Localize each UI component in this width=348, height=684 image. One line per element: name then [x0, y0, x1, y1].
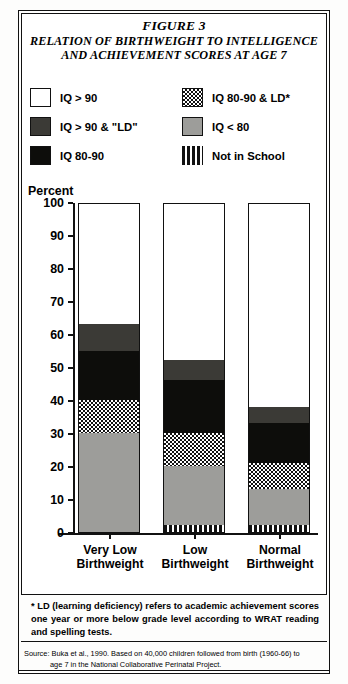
- source-line-2: age 7 in the National Collaborative Peri…: [24, 659, 324, 670]
- source-line-1: Source: Buka et al., 1990. Based on 40,0…: [24, 649, 300, 658]
- segment-iq-80-90: [164, 380, 224, 433]
- legend-item-iq-gt-90-ld: IQ > 90 & "LD": [30, 117, 138, 136]
- segment-iq-gt-90-ld: [79, 324, 139, 350]
- y-tick-mark: [68, 466, 73, 468]
- x-tick-mark-2: [194, 533, 196, 539]
- x-category-line-2: Birthweight: [225, 557, 335, 571]
- legend-item-iq-80-90: IQ 80-90: [30, 146, 104, 165]
- x-tick-mark-3: [279, 533, 281, 539]
- source-note: Source: Buka et al., 1990. Based on 40,0…: [24, 648, 324, 670]
- y-tick-label: 60: [50, 328, 64, 342]
- y-tick-label: 70: [50, 295, 64, 309]
- legend-label: IQ > 90 & "LD": [60, 121, 138, 133]
- legend-label: Not in School: [212, 150, 285, 162]
- figure-number: FIGURE 3: [21, 18, 327, 34]
- segment-iq-gt-90: [164, 203, 224, 360]
- x-category-line-1: Normal: [225, 543, 335, 557]
- segment-iq-lt-80: [164, 466, 224, 525]
- legend-label: IQ > 90: [60, 92, 97, 104]
- y-tick-label: 30: [50, 427, 64, 441]
- segment-iq-gt-90: [249, 203, 309, 407]
- y-tick-label: 50: [50, 361, 64, 375]
- chart-legend: IQ > 90 IQ 80-90 & LD* IQ > 90 & "LD" IQ…: [30, 88, 320, 168]
- segment-iq-gt-90: [79, 203, 139, 324]
- legend-label: IQ < 80: [212, 121, 249, 133]
- legend-swatch-checkered-square: [182, 88, 203, 107]
- segment-not-in-school: [249, 525, 309, 532]
- y-tick-mark: [68, 532, 73, 534]
- y-tick-label: 40: [50, 394, 64, 408]
- legend-swatch-striped-square: [182, 146, 203, 165]
- divider-rule: [21, 641, 327, 642]
- y-tick-mark: [68, 400, 73, 402]
- legend-swatch-dark-gray-square: [30, 117, 51, 136]
- x-tick-mark-1: [109, 533, 111, 539]
- bar-normal-birthweight[interactable]: [248, 203, 310, 533]
- figure-container: FIGURE 3 RELATION OF BIRTHWEIGHT TO INTE…: [0, 0, 348, 684]
- y-tick-label: 20: [50, 460, 64, 474]
- y-tick-mark: [68, 235, 73, 237]
- segment-iq-lt-80: [249, 489, 309, 525]
- segment-iq-gt-90-ld: [249, 407, 309, 424]
- y-tick-label: 80: [50, 262, 64, 276]
- y-tick-mark: [68, 367, 73, 369]
- bottom-rule: [18, 670, 330, 671]
- y-tick-label: 90: [50, 229, 64, 243]
- segment-iq-gt-90-ld: [164, 360, 224, 380]
- legend-swatch-white-square: [30, 88, 51, 107]
- footnote-ld-definition: * LD (learning deficiency) refers to aca…: [31, 600, 319, 640]
- segment-iq-80-90: [249, 423, 309, 463]
- legend-item-iq-80-90-ld: IQ 80-90 & LD*: [182, 88, 290, 107]
- segment-iq-80-90-ld: [164, 433, 224, 466]
- figure-title-line-1: RELATION OF BIRTHWEIGHT TO INTELLIGENCE: [21, 34, 327, 48]
- y-tick-label: 0: [57, 526, 64, 540]
- segment-iq-80-90-ld: [79, 400, 139, 433]
- y-tick-mark: [68, 301, 73, 303]
- legend-item-not-in-school: Not in School: [182, 146, 285, 165]
- plot-area: [74, 203, 314, 533]
- legend-swatch-black-square: [30, 146, 51, 165]
- figure-title: FIGURE 3 RELATION OF BIRTHWEIGHT TO INTE…: [21, 18, 327, 63]
- legend-swatch-gray-square: [182, 117, 203, 136]
- y-tick-label: 10: [50, 493, 64, 507]
- segment-iq-80-90-ld: [249, 463, 309, 489]
- y-tick-mark: [68, 202, 73, 204]
- y-tick-mark: [68, 433, 73, 435]
- y-tick-mark: [68, 499, 73, 501]
- bar-low-birthweight[interactable]: [163, 203, 225, 533]
- x-category-normal-birthweight: Normal Birthweight: [225, 543, 335, 572]
- segment-iq-lt-80: [79, 433, 139, 532]
- legend-label: IQ 80-90 & LD*: [212, 92, 290, 104]
- legend-item-iq-lt-80: IQ < 80: [182, 117, 249, 136]
- y-tick-mark: [68, 334, 73, 336]
- legend-label: IQ 80-90: [60, 150, 104, 162]
- segment-iq-80-90: [79, 351, 139, 401]
- segment-not-in-school: [164, 525, 224, 532]
- bar-very-low-birthweight[interactable]: [78, 203, 140, 533]
- y-tick-label: 100: [43, 196, 64, 210]
- figure-title-line-2: AND ACHIEVEMENT SCORES AT AGE 7: [21, 48, 327, 62]
- y-tick-mark: [68, 268, 73, 270]
- legend-item-iq-gt-90: IQ > 90: [30, 88, 97, 107]
